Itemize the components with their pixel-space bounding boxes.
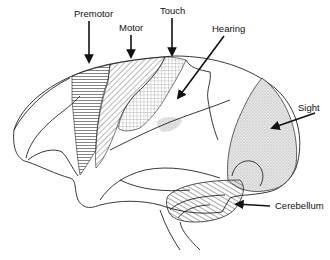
brainstem (180, 222, 200, 250)
sight-area (227, 78, 296, 192)
cerebellum-area (167, 180, 244, 222)
frontal-sulcus (26, 96, 80, 158)
sight-label: Sight (298, 102, 320, 113)
motor-label: Motor (119, 22, 143, 33)
hearing-arrow (178, 36, 224, 98)
hearing-label: Hearing (212, 23, 245, 34)
cerebellum-label: Cerebellum (275, 200, 324, 211)
touch-label: Touch (160, 5, 185, 16)
central-sulcus (186, 60, 218, 140)
brain-diagram: Premotor Motor Touch Hearing Sight Cereb… (0, 0, 330, 260)
frontal-contour (14, 78, 70, 130)
premotor-label: Premotor (74, 8, 113, 19)
cerebellum-arrow (236, 204, 270, 206)
